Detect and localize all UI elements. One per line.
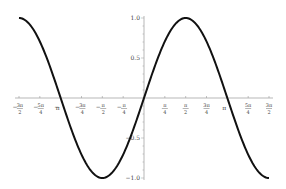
svg-text:π: π — [102, 102, 106, 108]
svg-text:4: 4 — [81, 109, 84, 115]
svg-text:π: π — [122, 102, 126, 108]
svg-text:5π: 5π — [245, 102, 252, 108]
x-tick-label: 3π2 — [266, 102, 273, 115]
svg-text:−: − — [117, 103, 122, 110]
svg-text:4: 4 — [205, 109, 208, 115]
svg-text:2: 2 — [102, 109, 105, 115]
svg-text:2: 2 — [184, 109, 187, 115]
svg-text:π: π — [56, 104, 60, 111]
tick-labels: −3π2−5π4−π−3π4−π2−π4π4π23π4π5π43π21.00.5… — [12, 14, 272, 181]
svg-text:5π: 5π — [37, 102, 44, 108]
svg-text:2: 2 — [18, 109, 21, 115]
x-tick-label: −π — [54, 103, 60, 111]
svg-text:4: 4 — [163, 109, 166, 115]
svg-text:2: 2 — [267, 109, 270, 115]
x-tick-label: π4 — [162, 102, 168, 115]
svg-text:4: 4 — [39, 109, 42, 115]
x-tick-label: −π4 — [117, 102, 127, 115]
x-tick-label: −3π4 — [75, 102, 86, 115]
svg-text:3π: 3π — [79, 102, 86, 108]
svg-text:3π: 3π — [203, 102, 210, 108]
x-tick-label: −3π2 — [12, 102, 23, 115]
y-tick-label: −1.0 — [125, 174, 140, 181]
svg-text:−: − — [96, 103, 101, 110]
x-tick-label: π — [222, 104, 226, 111]
sine-chart: −3π2−5π4−π−3π4−π2−π4π4π23π4π5π43π21.00.5… — [0, 0, 286, 189]
x-tick-label: 3π4 — [203, 102, 210, 115]
svg-text:3π: 3π — [266, 102, 273, 108]
y-tick-label: −0.5 — [125, 134, 140, 141]
svg-text:4: 4 — [247, 109, 250, 115]
svg-text:π: π — [222, 104, 226, 111]
svg-text:π: π — [184, 102, 188, 108]
x-tick-label: −π2 — [96, 102, 106, 115]
svg-text:π: π — [163, 102, 167, 108]
svg-text:4: 4 — [122, 109, 125, 115]
y-tick-label: 0.5 — [130, 54, 140, 61]
x-tick-label: −5π4 — [33, 102, 44, 115]
y-tick-label: 1.0 — [130, 14, 140, 21]
x-tick-label: π2 — [183, 102, 189, 115]
x-tick-label: 5π4 — [245, 102, 252, 115]
svg-text:3π: 3π — [17, 102, 24, 108]
